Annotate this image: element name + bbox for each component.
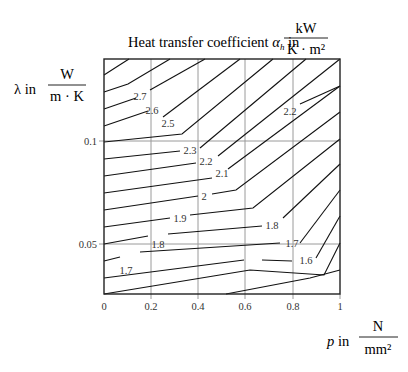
contour-label: 2.1 <box>215 168 228 179</box>
contour-line <box>104 59 170 92</box>
contour-line <box>300 190 340 243</box>
title-unit-numerator: kW <box>296 20 317 36</box>
x-tick-0.8: 0.8 <box>286 301 299 312</box>
contour-line <box>104 151 180 159</box>
contour-line <box>104 257 120 261</box>
contour-label: 1.8 <box>151 239 164 250</box>
contour-label: 1.9 <box>173 213 186 224</box>
y-unit-numerator: W <box>60 66 74 82</box>
contour-label: 2.5 <box>161 118 174 129</box>
y-tick-labels: 0.1 0.05 <box>79 136 97 250</box>
contour-line <box>190 139 340 215</box>
contour-line <box>104 163 196 176</box>
contour-line <box>104 243 340 294</box>
contour-line <box>262 260 292 261</box>
contour-label: 1.6 <box>299 255 312 266</box>
svg-text:p in: p in <box>326 333 350 349</box>
contour-label: 1.7 <box>285 238 298 249</box>
x-tick-0.2: 0.2 <box>144 301 157 312</box>
contour-line <box>283 164 340 218</box>
contour-label: 2.2 <box>199 156 212 167</box>
svg-text:λ in: λ in <box>14 81 37 97</box>
y-tick-0.05: 0.05 <box>79 239 97 250</box>
contour-line <box>104 59 129 75</box>
y-tick-0.1: 0.1 <box>84 136 97 147</box>
contour-label: 2.7 <box>133 91 146 102</box>
contour-chart: Heat transfer coefficient αh in kW K · m… <box>0 0 408 372</box>
contour-line <box>163 59 240 117</box>
contour-label: 2.6 <box>145 105 158 116</box>
x-tick-labels: 0 0.2 0.4 0.6 0.8 1 <box>101 301 342 312</box>
contour-line <box>104 236 148 244</box>
contour-line <box>104 98 136 109</box>
x-axis-label: p in N mm² <box>326 318 398 357</box>
x-tick-0: 0 <box>101 301 106 312</box>
contour-line <box>168 226 262 234</box>
contour-line <box>104 111 148 126</box>
contour-label: 2 <box>201 191 206 202</box>
x-unit-denominator: mm² <box>365 341 393 357</box>
contour-line <box>150 59 205 90</box>
x-tick-0.4: 0.4 <box>191 301 205 312</box>
contour-line <box>104 218 170 227</box>
x-tick-1: 1 <box>337 301 342 312</box>
y-unit-denominator: m · K <box>50 88 84 104</box>
contour-label: 1.7 <box>119 265 132 276</box>
chart-title: Heat transfer coefficient αh in kW K · m… <box>128 20 328 57</box>
contour-label: 1.8 <box>265 220 278 231</box>
y-axis-label: λ in W m · K <box>14 66 86 104</box>
x-tick-0.6: 0.6 <box>238 301 251 312</box>
x-unit-numerator: N <box>373 318 384 334</box>
contour-label: 2.3 <box>183 145 196 156</box>
contour-line <box>316 216 340 258</box>
contour-line <box>226 270 340 294</box>
contour-label: 2.2 <box>283 106 296 117</box>
contour-line <box>104 178 212 193</box>
contour-line <box>200 59 306 148</box>
svg-text:Heat transfer coefficient αh i: Heat transfer coefficient αh in <box>128 34 300 52</box>
title-unit-denominator: K · m² <box>287 41 326 57</box>
